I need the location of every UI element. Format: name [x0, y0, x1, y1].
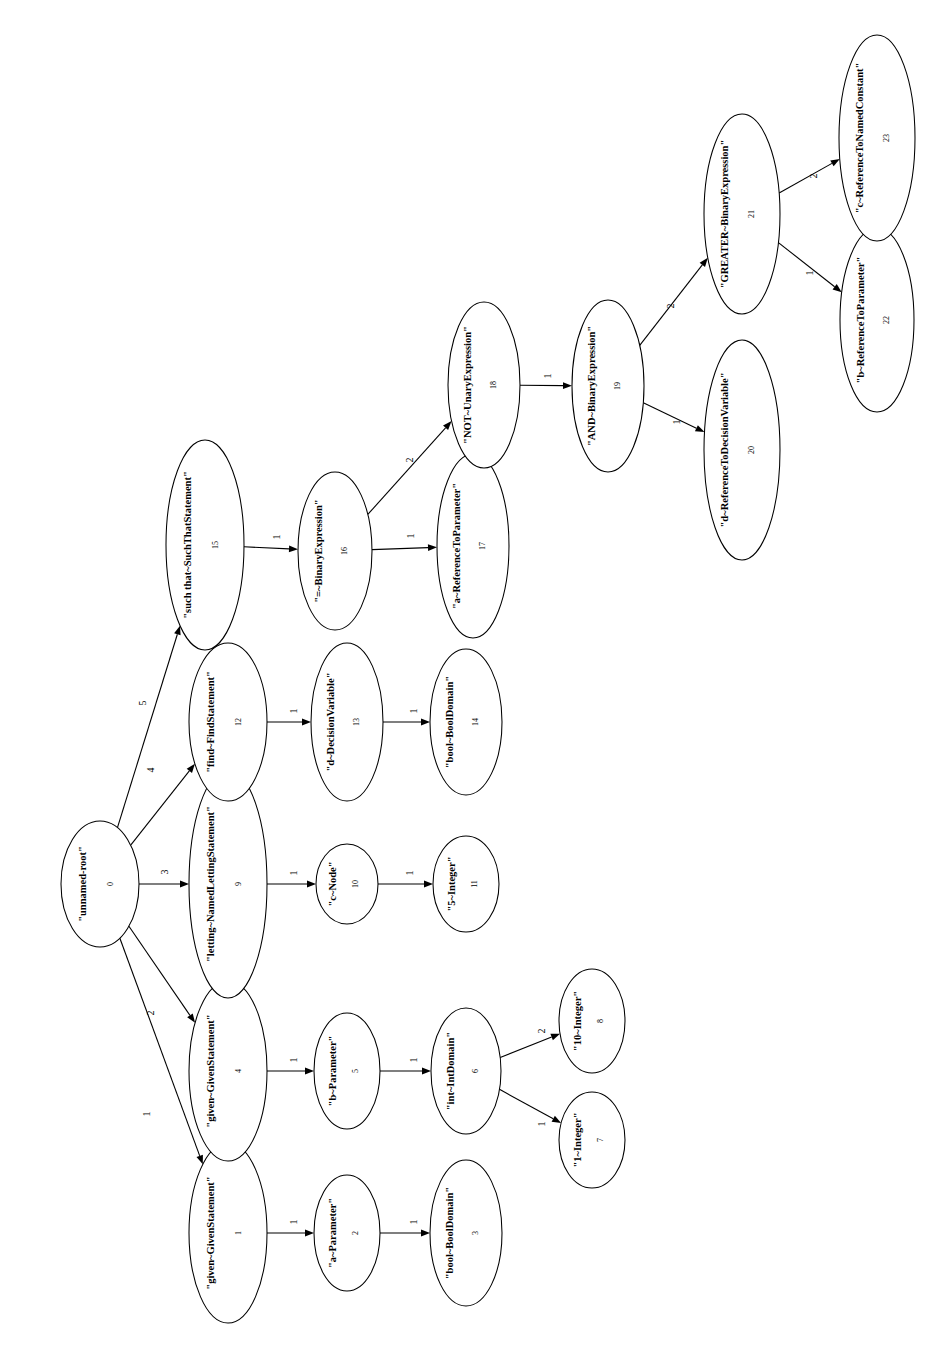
- node-ellipse[interactable]: [430, 649, 502, 795]
- graph-node[interactable]: "find~FindStatement"12: [189, 643, 267, 801]
- edge-label: 2: [404, 458, 415, 463]
- edge-arrowhead: [830, 159, 840, 166]
- node-index: 3: [471, 1231, 480, 1235]
- node-ellipse[interactable]: [166, 440, 244, 650]
- graph-node[interactable]: "int~IntDomain"6: [431, 1008, 501, 1134]
- edge-arrowhead: [302, 719, 311, 726]
- graph-node[interactable]: "1~Integer"7: [559, 1092, 625, 1188]
- graph-edge: 1: [778, 243, 841, 293]
- node-ellipse[interactable]: [840, 228, 914, 412]
- node-ellipse[interactable]: [430, 1160, 502, 1306]
- graph-node[interactable]: "unnamed-root"0: [61, 821, 139, 947]
- edge-label: 1: [288, 1058, 299, 1063]
- graph-edge: 1: [378, 871, 433, 888]
- node-ellipse[interactable]: [448, 302, 520, 468]
- node-index: 0: [106, 882, 115, 886]
- edge-label: 2: [808, 174, 819, 179]
- node-ellipse[interactable]: [839, 35, 915, 241]
- graph-node[interactable]: "letting~NamedLettingStatement"9: [189, 770, 267, 998]
- node-index: 15: [211, 541, 220, 549]
- edge-arrowhead: [424, 881, 433, 888]
- graph-node[interactable]: "b~ReferenceToParameter"22: [840, 228, 914, 412]
- graph-edge: 2: [640, 258, 708, 345]
- graph-node[interactable]: "bool~BoolDomain"14: [430, 649, 502, 795]
- graph-edge: 1: [383, 709, 430, 726]
- edge-arrowhead: [174, 626, 181, 636]
- edge-arrowhead: [421, 719, 430, 726]
- edge-label: 1: [671, 420, 682, 425]
- node-ellipse[interactable]: [431, 1008, 501, 1134]
- graph-node[interactable]: "=~BinaryExpression"16: [298, 472, 372, 630]
- node-ellipse[interactable]: [704, 114, 780, 314]
- graph-node[interactable]: "b~Parameter"5: [314, 1013, 380, 1129]
- graph-node[interactable]: "GREATER~BinaryExpression"21: [704, 114, 780, 314]
- node-ellipse[interactable]: [437, 454, 509, 638]
- node-label: "c~ReferenceToNamedConstant": [854, 63, 865, 214]
- graph-node[interactable]: "bool~BoolDomain"3: [430, 1160, 502, 1306]
- graph-node[interactable]: "10~Integer"8: [559, 969, 625, 1073]
- node-label: "given~GivenStatement": [205, 1176, 216, 1289]
- graph-node[interactable]: "such that~SuchThatStatement"15: [166, 440, 244, 650]
- node-index: 12: [234, 718, 243, 726]
- edge-arrowhead: [422, 1068, 431, 1075]
- graph-node[interactable]: "given~GivenStatement"4: [189, 981, 267, 1161]
- edge-arrowhead: [289, 545, 298, 552]
- node-ellipse[interactable]: [189, 981, 267, 1161]
- edge-arrowhead: [695, 425, 705, 432]
- node-ellipse[interactable]: [298, 472, 372, 630]
- node-label: "such that~SuchThatStatement": [182, 471, 193, 619]
- edge-label: 1: [536, 1122, 547, 1127]
- graph-node[interactable]: "5~Integer"11: [433, 836, 499, 932]
- node-ellipse[interactable]: [433, 836, 499, 932]
- node-label: "b~ReferenceToParameter": [855, 257, 866, 384]
- node-ellipse[interactable]: [61, 821, 139, 947]
- graph-edge: 3: [139, 870, 189, 888]
- edge-line: [500, 1037, 551, 1057]
- node-index: 18: [489, 381, 498, 389]
- edge-line: [368, 428, 446, 515]
- graph-edge: 1: [520, 374, 572, 390]
- edge-label: 1: [288, 871, 299, 876]
- edge-label: 1: [288, 709, 299, 714]
- graph-edge: 2: [779, 159, 840, 193]
- graph-node[interactable]: "a~ReferenceToParameter"17: [437, 454, 509, 638]
- edge-arrowhead: [563, 382, 572, 389]
- edge-arrowhead: [187, 764, 195, 773]
- graph-node[interactable]: "c~Node"10: [316, 844, 378, 924]
- graph-node[interactable]: "a~Parameter"2: [314, 1175, 380, 1291]
- graph-node[interactable]: "given~GivenStatement"1: [189, 1143, 267, 1323]
- node-index: 19: [613, 382, 622, 390]
- edge-arrowhead: [421, 1230, 430, 1237]
- graph-node[interactable]: "NOT~UnaryExpression"18: [448, 302, 520, 468]
- graph-node[interactable]: "AND~BinaryExpression"19: [572, 300, 644, 472]
- node-ellipse[interactable]: [559, 969, 625, 1073]
- node-ellipse[interactable]: [316, 844, 378, 924]
- graph-edge: 1: [267, 1220, 314, 1237]
- edge-arrowhead: [187, 1014, 195, 1023]
- node-label: "GREATER~BinaryExpression": [719, 140, 730, 289]
- node-ellipse[interactable]: [189, 1143, 267, 1323]
- edge-line: [779, 163, 832, 193]
- graph-edge: 1: [267, 709, 311, 726]
- graph-node[interactable]: "d~DecisionVariable"13: [311, 643, 383, 801]
- node-label: "1~Integer": [572, 1112, 583, 1167]
- edge-arrowhead: [180, 881, 189, 888]
- node-ellipse[interactable]: [559, 1092, 625, 1188]
- node-label: "a~Parameter": [327, 1198, 338, 1268]
- node-index: 21: [747, 210, 756, 218]
- node-ellipse[interactable]: [314, 1175, 380, 1291]
- graph-node[interactable]: "d~ReferenceToDecisionVariable"20: [704, 340, 780, 560]
- edge-line: [778, 243, 834, 287]
- node-label: "5~Integer": [446, 856, 457, 911]
- edge-label: 1: [288, 1220, 299, 1225]
- node-ellipse[interactable]: [189, 643, 267, 801]
- node-ellipse[interactable]: [189, 770, 267, 998]
- node-ellipse[interactable]: [314, 1013, 380, 1129]
- edge-label: 1: [804, 271, 815, 276]
- node-index: 8: [596, 1019, 605, 1023]
- node-index: 17: [478, 542, 487, 550]
- node-ellipse[interactable]: [572, 300, 644, 472]
- node-ellipse[interactable]: [704, 340, 780, 560]
- node-ellipse[interactable]: [311, 643, 383, 801]
- graph-node[interactable]: "c~ReferenceToNamedConstant"23: [839, 35, 915, 241]
